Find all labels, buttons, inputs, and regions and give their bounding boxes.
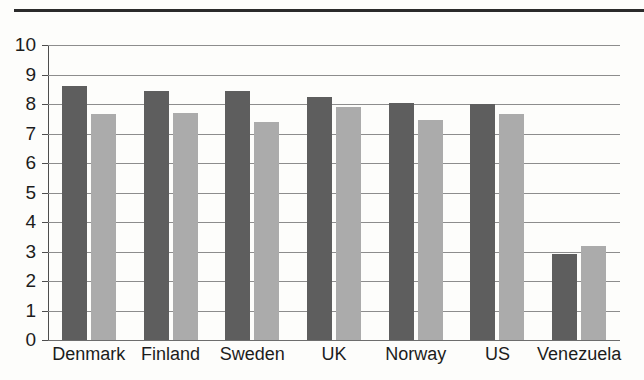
y-axis-tick-label: 6 (6, 153, 36, 172)
gridline (48, 311, 620, 312)
y-axis-tick-label: 1 (6, 301, 36, 320)
y-axis-tick-mark (42, 193, 48, 194)
bar-finland-series-1 (144, 91, 169, 340)
gridline (48, 193, 620, 194)
gridline (48, 104, 620, 105)
y-axis-tick-label: 5 (6, 183, 36, 202)
bar-us-series-1 (470, 104, 495, 340)
bar-uk-series-1 (307, 97, 332, 340)
y-axis-tick-label: 7 (6, 124, 36, 143)
bar-norway-series-2 (418, 120, 443, 340)
gridline (48, 281, 620, 282)
bar-venezuela-series-2 (581, 246, 606, 340)
y-axis-tick-label: 9 (6, 65, 36, 84)
y-axis-tick-label: 4 (6, 212, 36, 231)
y-axis-tick-label: 2 (6, 271, 36, 290)
bar-us-series-2 (499, 114, 524, 340)
gridline (48, 134, 620, 135)
bar-sweden-series-1 (225, 91, 250, 340)
bar-finland-series-2 (173, 113, 198, 340)
y-axis-tick-mark (42, 252, 48, 253)
y-axis-tick-mark (42, 134, 48, 135)
y-axis-tick-mark (42, 311, 48, 312)
bar-uk-series-2 (336, 107, 361, 340)
plot-area (48, 45, 620, 340)
bar-chart-figure: 109876543210 DenmarkFinlandSwedenUKNorwa… (0, 0, 644, 380)
bar-denmark-series-1 (62, 86, 87, 340)
bar-norway-series-1 (389, 103, 414, 340)
y-axis-tick-label: 3 (6, 242, 36, 261)
y-axis-tick-mark (42, 222, 48, 223)
y-axis-tick-label: 10 (6, 35, 36, 54)
gridline (48, 45, 620, 46)
gridline (48, 252, 620, 253)
gridline (48, 163, 620, 164)
y-axis-tick-mark (42, 281, 48, 282)
gridline (48, 222, 620, 223)
bar-denmark-series-2 (91, 114, 116, 340)
y-axis-tick-mark (42, 340, 48, 341)
gridline (48, 75, 620, 76)
x-axis-label-venezuela: Venezuela (519, 345, 639, 363)
top-divider-rule (14, 9, 644, 12)
y-axis-tick-mark (42, 163, 48, 164)
y-axis-tick-mark (42, 104, 48, 105)
bar-venezuela-series-1 (552, 254, 577, 340)
y-axis-tick-mark (42, 45, 48, 46)
y-axis-tick-label: 8 (6, 94, 36, 113)
gridline (48, 340, 620, 341)
y-axis-tick-mark (42, 75, 48, 76)
bar-sweden-series-2 (254, 122, 279, 340)
